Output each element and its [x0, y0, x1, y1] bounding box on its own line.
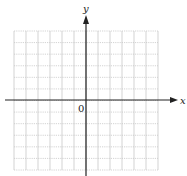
y-axis-arrow-icon — [83, 15, 89, 24]
x-axis-label: x — [180, 95, 186, 106]
x-axis-arrow-icon — [170, 97, 178, 103]
y-axis-label: y — [82, 3, 89, 14]
coordinate-plane: x y 0 — [0, 0, 187, 176]
origin-label: 0 — [78, 103, 84, 114]
